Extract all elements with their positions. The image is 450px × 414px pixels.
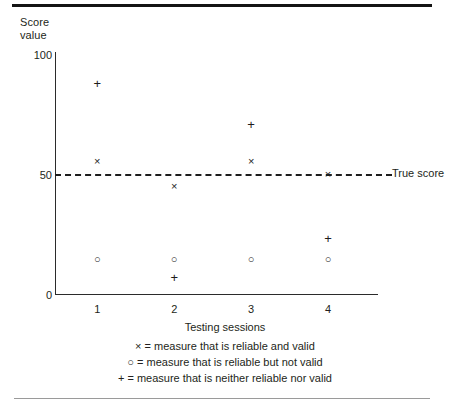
data-point-plus-session-3: + [244, 118, 258, 132]
y-axis-title: Score value [20, 16, 49, 42]
y-tick-label-0: 0 [12, 290, 52, 301]
legend: × = measure that is reliable and valid ○… [0, 338, 450, 386]
legend-item-cross: × = measure that is reliable and valid [0, 338, 450, 354]
bottom-rule [14, 398, 430, 399]
x-tick-label-1: 1 [85, 304, 109, 315]
y-tick-label-50: 50 [12, 170, 52, 181]
data-point-cross-session-4: × [321, 167, 335, 181]
x-tick-label-2: 2 [162, 304, 186, 315]
data-point-circle-session-4: ○ [321, 252, 335, 266]
x-tick-label-4: 4 [316, 304, 340, 315]
legend-item-plus: + = measure that is neither reliable nor… [0, 370, 450, 386]
data-point-plus-session-2: + [167, 271, 181, 285]
data-point-circle-session-1: ○ [90, 252, 104, 266]
data-point-plus-session-4: + [321, 232, 335, 246]
legend-item-circle: ○ = measure that is reliable but not val… [0, 354, 450, 370]
y-tick-label-100: 100 [12, 50, 52, 61]
figure-container: Score value 100 50 0 ××××○○○○++++ 1234 T… [0, 0, 450, 414]
data-point-circle-session-2: ○ [167, 252, 181, 266]
x-tick-label-3: 3 [239, 304, 263, 315]
top-rule [12, 4, 432, 7]
x-axis-title: Testing sessions [0, 321, 450, 334]
data-point-circle-session-3: ○ [244, 252, 258, 266]
data-point-cross-session-1: × [90, 154, 104, 168]
x-axis-line [55, 294, 378, 295]
reference-line-dash [55, 174, 392, 176]
data-point-cross-session-2: × [167, 179, 181, 193]
data-point-cross-session-3: × [244, 154, 258, 168]
data-point-plus-session-1: + [90, 77, 104, 91]
plot-area: ××××○○○○++++ [55, 52, 378, 295]
true-score-label: True score [392, 168, 444, 179]
